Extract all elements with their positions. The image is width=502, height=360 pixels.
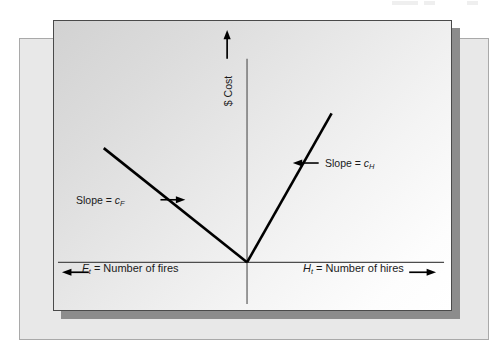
slope-fires-subscript: F xyxy=(120,199,125,208)
y-axis-arrow-icon xyxy=(224,30,231,59)
series-line-firing-cost xyxy=(104,148,247,262)
y-axis-label-text: $ Cost xyxy=(222,76,234,106)
slope-hires-annotation: Slope = cH xyxy=(325,157,375,171)
hires-label-text: = Number of hires xyxy=(313,262,404,274)
fires-label-text: = Number of fires xyxy=(91,262,179,274)
figure-root: $ Cost Slope = cF Slope = cH Ft = Number… xyxy=(0,0,502,360)
slope-hires-subscript: H xyxy=(369,162,374,171)
x-axis-right-label: Ht = Number of hires xyxy=(303,262,404,276)
x-axis-right-arrow-icon xyxy=(409,269,436,276)
series-line-hiring-cost xyxy=(247,113,332,262)
slope-fires-prefix: Slope = xyxy=(76,194,115,206)
scan-artifact xyxy=(392,1,418,5)
scan-artifact xyxy=(467,1,478,5)
y-axis-label: $ Cost xyxy=(221,63,235,119)
slope-hires-prefix: Slope = xyxy=(325,157,364,169)
x-axis-left-label: Ft = Number of fires xyxy=(82,262,179,276)
hires-symbol: H xyxy=(303,262,311,274)
slope-fires-annotation: Slope = cF xyxy=(76,194,125,208)
fires-symbol: F xyxy=(82,262,89,274)
scan-artifact xyxy=(424,1,435,5)
